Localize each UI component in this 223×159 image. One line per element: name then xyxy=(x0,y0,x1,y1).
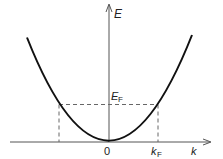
fermi-energy-subscript: F xyxy=(118,95,123,104)
fermi-wavevector-subscript: F xyxy=(157,150,162,159)
k-axis-label: k xyxy=(191,145,197,157)
origin-label: 0 xyxy=(104,145,110,157)
dispersion-diagram: E E F 0 k F k xyxy=(0,0,223,159)
e-axis-label: E xyxy=(114,7,123,21)
